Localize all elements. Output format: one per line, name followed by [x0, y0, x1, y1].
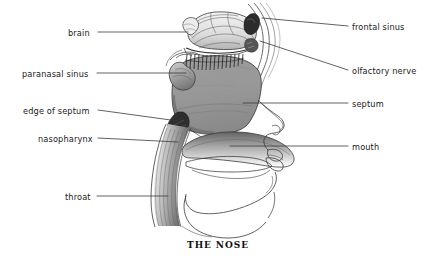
- soft-palate-structure: [182, 132, 294, 167]
- label-edge-of-septum: edge of septum: [23, 106, 90, 116]
- label-mouth: mouth: [352, 142, 379, 152]
- leader-line-frontal-sinus: [262, 18, 348, 26]
- label-frontal-sinus: frontal sinus: [352, 22, 405, 32]
- label-nasopharynx: nasopharynx: [38, 134, 93, 144]
- label-septum: septum: [352, 99, 384, 109]
- figure-caption: THE NOSE: [0, 240, 436, 250]
- nose-anatomy-figure: brain paranasal sinus edge of septum nas…: [0, 0, 436, 269]
- label-brain: brain: [68, 28, 90, 38]
- leader-line-edge-of-septum: [98, 110, 178, 121]
- label-olfactory-nerve: olfactory nerve: [352, 66, 416, 76]
- label-throat: throat: [65, 192, 91, 202]
- label-paranasal-sinus: paranasal sinus: [22, 69, 88, 79]
